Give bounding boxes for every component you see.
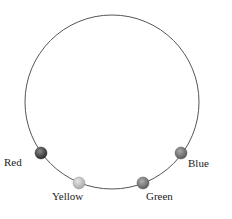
bead-label-green: Green — [146, 190, 173, 202]
bead-label-yellow: Yellow — [52, 190, 83, 202]
red-bead-icon — [35, 147, 47, 159]
bead-green: Green — [137, 177, 173, 202]
bead-yellow: Yellow — [52, 177, 85, 202]
bead-blue: Blue — [175, 147, 209, 169]
bead-circle-diagram: Red Yellow Green Blue — [0, 0, 232, 219]
bead-label-red: Red — [4, 156, 22, 168]
blue-bead-icon — [175, 147, 187, 159]
yellow-bead-icon — [73, 177, 85, 189]
bead-red: Red — [4, 147, 47, 168]
ring — [25, 15, 199, 189]
green-bead-icon — [137, 177, 149, 189]
bead-label-blue: Blue — [188, 157, 209, 169]
